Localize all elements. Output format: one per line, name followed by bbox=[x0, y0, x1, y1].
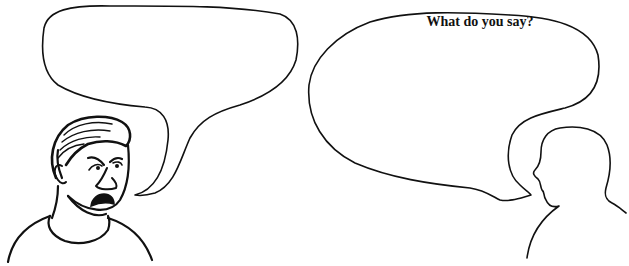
left-speech-bubble bbox=[43, 6, 298, 196]
left-character-shoulders bbox=[8, 216, 152, 262]
left-character-nose bbox=[96, 168, 117, 189]
right-bubble-text: What do you say? bbox=[380, 14, 580, 30]
left-character-mouth bbox=[91, 194, 114, 206]
left-character-collar bbox=[49, 216, 110, 243]
right-speech-bubble bbox=[309, 13, 599, 201]
left-character-eye-left bbox=[96, 166, 100, 170]
left-character-eye-right bbox=[115, 164, 119, 168]
illustration-svg bbox=[0, 0, 629, 266]
silhouette-person bbox=[527, 127, 626, 258]
illustration bbox=[0, 0, 629, 266]
